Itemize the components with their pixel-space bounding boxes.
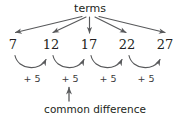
terms-fan-arrows	[16, 17, 166, 34]
curved-arrow-step-3	[91, 56, 122, 68]
term-value-3: 17	[81, 38, 98, 51]
curved-arrow-step-1	[15, 56, 46, 68]
term-value-4: 22	[119, 38, 136, 51]
curved-arrow-step-2	[53, 56, 84, 68]
arithmetic-sequence-diagram: terms 7 12 17 22 27 + 5 + 5 + 5 + 5 comm…	[0, 0, 180, 120]
difference-label-4: + 5	[137, 74, 154, 84]
difference-label-2: + 5	[61, 74, 78, 84]
difference-label-1: + 5	[23, 74, 40, 84]
curved-arrow-step-4	[129, 56, 160, 68]
term-value-2: 12	[43, 38, 60, 51]
terms-title-label: terms	[74, 3, 106, 14]
difference-label-3: + 5	[99, 74, 116, 84]
common-difference-caption: common difference	[44, 104, 146, 115]
step-curved-arrows	[15, 56, 160, 68]
term-value-5: 27	[157, 38, 174, 51]
term-value-1: 7	[9, 38, 17, 51]
diagram-graphics	[0, 0, 180, 120]
fan-arrow-to-term-1	[16, 17, 83, 33]
